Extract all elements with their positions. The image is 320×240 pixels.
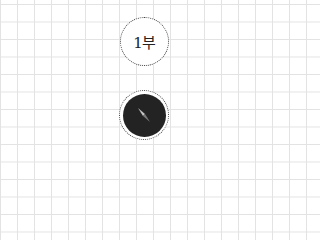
grid-background xyxy=(0,0,219,189)
zoom-level-label: 1부 xyxy=(133,31,156,52)
compass-needle-icon xyxy=(131,102,157,128)
compass-button[interactable] xyxy=(119,90,169,140)
compass-disc xyxy=(123,94,166,137)
zoom-level-button[interactable]: 1부 xyxy=(120,17,169,66)
